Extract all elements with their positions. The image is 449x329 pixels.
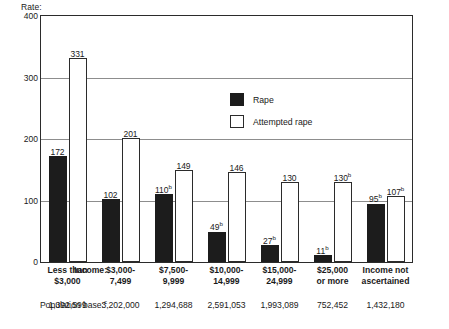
chart-legend: RapeAttempted rape — [230, 93, 312, 137]
bar-rape-6: 95b — [367, 204, 385, 262]
category-label-6: Income notascertained — [351, 265, 421, 287]
y-tick-label-200: 200 — [14, 134, 38, 144]
bar-value-label: 201 — [123, 130, 137, 139]
population-base-row: Population base:c 1,392,5993,202,0001,29… — [0, 300, 449, 314]
bar-attempted-rape-1: 201 — [122, 138, 140, 262]
legend-swatch-icon — [230, 115, 244, 128]
bar-value-label: 146 — [229, 164, 243, 173]
rape-rate-by-income-bar-chart: Rate: 172331102201110b14949b14627b13011b… — [0, 0, 449, 329]
bar-rape-3: 49b — [208, 232, 226, 262]
bar-rape-4: 27b — [261, 245, 279, 262]
bar-value-label: 130b — [334, 174, 352, 183]
bar-value-label: 110b — [155, 186, 172, 195]
bar-series-container: 172331102201110b14949b14627b13011b130b95… — [41, 16, 412, 262]
population-base-value-6: 1,432,180 — [351, 300, 421, 311]
legend-swatch-icon — [230, 93, 244, 106]
bar-rape-5: 11b — [314, 255, 332, 262]
bar-attempted-rape-2: 149 — [175, 170, 193, 262]
bar-value-label: 172 — [50, 148, 64, 157]
bar-value-label: 331 — [70, 50, 84, 59]
bar-attempted-rape-4: 130 — [281, 182, 299, 262]
bar-value-label: 130 — [282, 174, 296, 183]
bar-value-label: 102 — [103, 191, 117, 200]
legend-item-rape: Rape — [230, 93, 312, 106]
bar-value-label: 95b — [369, 195, 382, 204]
bar-rape-1: 102 — [102, 199, 120, 262]
bar-attempted-rape-0: 331 — [69, 58, 87, 262]
bar-value-label: 149 — [176, 162, 190, 171]
y-tick-label-400: 400 — [14, 11, 38, 21]
bar-attempted-rape-6: 107b — [387, 196, 405, 262]
category-label-line: Income not — [351, 265, 421, 276]
bar-attempted-rape-5: 130b — [334, 182, 352, 262]
bar-value-label: 27b — [263, 237, 276, 246]
bar-rape-0: 172 — [49, 156, 67, 262]
y-tick-label-300: 300 — [14, 73, 38, 83]
y-tick-label-0: 0 — [14, 257, 38, 267]
y-tick-label-100: 100 — [14, 196, 38, 206]
legend-label: Attempted rape — [253, 117, 312, 127]
bar-attempted-rape-3: 146 — [228, 172, 246, 262]
bar-rape-2: 110b — [155, 194, 173, 262]
legend-item-attempted-rape: Attempted rape — [230, 115, 312, 128]
x-axis-category-labels: Income: Less than$3,000$3,000-7,499$7,50… — [0, 265, 449, 297]
bar-value-label: 107b — [387, 188, 405, 197]
bar-value-label: 49b — [210, 223, 223, 232]
category-label-line: ascertained — [351, 276, 421, 287]
legend-label: Rape — [253, 95, 274, 105]
bar-value-label: 11b — [316, 247, 328, 256]
plot-area: 172331102201110b14949b14627b13011b130b95… — [40, 15, 413, 263]
